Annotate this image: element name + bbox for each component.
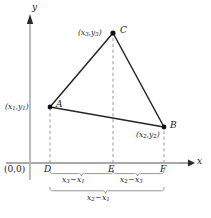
origin-label: (0,0): [4, 165, 25, 174]
geometry-figure: C A B (x3,y3) (x1,y1) (x2,y2) y x (0,0) …: [0, 0, 211, 218]
y-axis-arrowhead: [27, 14, 33, 24]
coord-label-c: (x3,y3): [78, 29, 102, 37]
foot-label-f: F: [160, 165, 166, 174]
vertex-dot-a: [48, 105, 53, 110]
y-axis: [27, 14, 33, 180]
triangle-abc: [50, 33, 164, 127]
vertex-label-a: A: [56, 100, 63, 109]
projection-lines: [50, 33, 164, 163]
x-axis: [6, 160, 195, 167]
vertex-dot-b: [162, 125, 167, 130]
triangle-outline: [50, 33, 164, 127]
coord-label-a: (x1,y1): [5, 103, 29, 111]
figure-canvas: [0, 0, 211, 218]
vertex-label-b: B: [170, 121, 177, 130]
foot-label-e: E: [108, 165, 115, 174]
y-axis-label: y: [32, 3, 37, 12]
x-axis-label: x: [197, 157, 202, 166]
brace-label-ef: x2−x3: [120, 176, 143, 184]
coord-label-b: (x2,y2): [136, 131, 160, 139]
foot-label-d: D: [44, 165, 51, 174]
vertex-dot-c: [110, 30, 115, 35]
brace-label-de: x3−x1: [62, 176, 85, 184]
x-axis-arrowhead: [188, 160, 195, 167]
brace-label-df: x2−x1: [87, 194, 110, 202]
brace-df: [50, 187, 164, 193]
brace-df-path: [50, 187, 164, 193]
vertex-dots: [48, 30, 167, 129]
vertex-label-c: C: [120, 26, 127, 35]
